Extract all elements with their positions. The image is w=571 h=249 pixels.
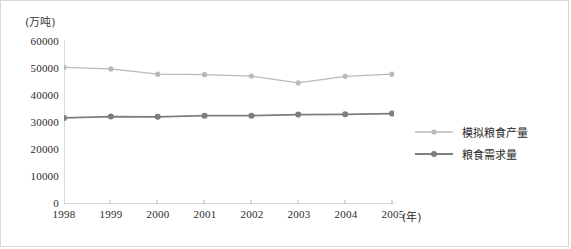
chart-legend: 模拟粮食产量 粮食需求量	[415, 121, 565, 165]
data-point	[64, 115, 67, 121]
x-tick-label: 2001	[194, 208, 217, 220]
data-point	[155, 72, 160, 77]
x-axis-unit-label: (年)	[402, 208, 422, 224]
plot-area	[64, 40, 394, 204]
data-point	[389, 111, 394, 117]
y-tick-label: 40000	[13, 89, 59, 101]
data-point	[108, 114, 114, 120]
y-tick-label: 10000	[13, 170, 59, 182]
legend-line-marker-icon	[415, 126, 453, 138]
data-point	[64, 65, 67, 70]
legend-label: 粮食需求量	[462, 146, 517, 162]
line-chart-svg	[64, 40, 394, 204]
x-tick-label: 2004	[335, 208, 358, 220]
x-tick-label: 1999	[100, 208, 123, 220]
legend-label: 模拟粮食产量	[462, 124, 528, 140]
legend-item-simulated-output: 模拟粮食产量	[415, 121, 565, 143]
data-point	[202, 72, 207, 77]
x-tick-label: 2000	[147, 208, 170, 220]
data-point	[296, 80, 301, 85]
chart-figure: (万吨) 60000 50000 40000 30000 20000 10000…	[0, 0, 569, 247]
data-point	[343, 74, 348, 79]
x-tick-label: 1998	[53, 208, 76, 220]
x-tick-label: 2005	[382, 208, 405, 220]
series-group	[64, 65, 394, 121]
y-tick-label: 30000	[13, 116, 59, 128]
y-tick-label: 50000	[13, 62, 59, 74]
y-tick-label: 60000	[13, 35, 59, 47]
x-axis-tick-labels: 1998 1999 2000 2001 2002 2003 2004 2005	[1, 208, 571, 228]
legend-item-grain-demand: 粮食需求量	[415, 143, 565, 165]
data-point	[248, 113, 254, 119]
data-point	[342, 111, 348, 117]
data-point	[249, 73, 254, 78]
data-point	[155, 114, 161, 120]
data-point	[108, 66, 113, 71]
legend-line-marker-icon	[415, 148, 453, 160]
x-tick-label: 2002	[241, 208, 264, 220]
y-tick-label: 20000	[13, 143, 59, 155]
data-point	[202, 113, 208, 119]
x-axis-ticks	[110, 200, 392, 204]
data-point	[389, 72, 394, 77]
data-point	[295, 112, 301, 118]
x-tick-label: 2003	[288, 208, 311, 220]
